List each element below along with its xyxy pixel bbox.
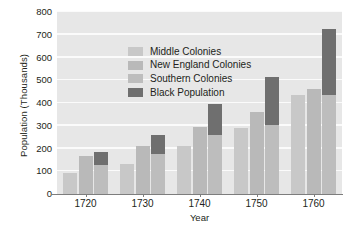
legend-item-label: Middle Colonies bbox=[150, 47, 221, 57]
y-axis-tick-label: 700 bbox=[36, 30, 52, 40]
legend-swatch-icon bbox=[128, 47, 143, 56]
y-axis-tick-label: 400 bbox=[36, 98, 52, 108]
bar-new-england-colonies bbox=[79, 156, 93, 194]
legend-item-label: New England Colonies bbox=[150, 60, 251, 70]
segment-black-population bbox=[208, 104, 222, 135]
segment-southern-colonies bbox=[208, 135, 222, 194]
bar-southern-and-black-population bbox=[151, 135, 165, 194]
x-axis-line bbox=[51, 194, 343, 195]
x-axis-tick-label: 1740 bbox=[177, 198, 223, 210]
y-axis-tick-label: 300 bbox=[36, 121, 52, 131]
bar-southern-and-black-population bbox=[322, 29, 336, 194]
x-axis-tickmark bbox=[314, 194, 315, 197]
x-axis-tickmark bbox=[143, 194, 144, 197]
segment-black-population bbox=[94, 152, 108, 165]
segment-black-population bbox=[322, 29, 336, 95]
legend-swatch-icon bbox=[128, 61, 143, 70]
bar-new-england-colonies bbox=[136, 146, 150, 194]
bar-southern-and-black-population bbox=[265, 77, 279, 194]
bar-group bbox=[120, 12, 165, 194]
y-axis-tick-label: 100 bbox=[36, 166, 52, 176]
chart-legend: Middle ColoniesNew England ColoniesSouth… bbox=[128, 45, 251, 99]
plot-area: Middle ColoniesNew England ColoniesSouth… bbox=[57, 12, 342, 194]
legend-swatch-icon bbox=[128, 88, 143, 97]
segment-southern-colonies bbox=[94, 165, 108, 194]
legend-item: Southern Colonies bbox=[128, 72, 251, 86]
bar-southern-and-black-population bbox=[94, 152, 108, 194]
legend-item: New England Colonies bbox=[128, 59, 251, 73]
segment-southern-colonies bbox=[151, 154, 165, 194]
y-axis-tick-label: 800 bbox=[36, 7, 52, 17]
bar-southern-and-black-population bbox=[208, 104, 222, 194]
y-axis-tick-label: 600 bbox=[36, 53, 52, 63]
bar-middle-colonies bbox=[234, 128, 248, 194]
population-bar-chart: Population (Thousands) 01002003004005006… bbox=[0, 0, 349, 240]
bar-group bbox=[63, 12, 108, 194]
segment-black-population bbox=[265, 77, 279, 125]
y-axis-tick-label: 500 bbox=[36, 75, 52, 85]
legend-item-label: Southern Colonies bbox=[150, 74, 232, 84]
bar-middle-colonies bbox=[120, 164, 134, 194]
x-axis-tick-label: 1750 bbox=[234, 198, 280, 210]
segment-southern-colonies bbox=[322, 95, 336, 194]
x-axis-tickmark bbox=[257, 194, 258, 197]
x-axis-tick-label: 1760 bbox=[291, 198, 337, 210]
legend-item: Middle Colonies bbox=[128, 45, 251, 59]
segment-southern-colonies bbox=[265, 125, 279, 194]
bar-group bbox=[291, 12, 336, 194]
bar-middle-colonies bbox=[63, 173, 77, 194]
bar-group bbox=[177, 12, 222, 194]
x-axis-title: Year bbox=[57, 212, 342, 223]
y-axis-tick-labels: 0100200300400500600700800 bbox=[24, 0, 52, 200]
y-axis-tick-label: 200 bbox=[36, 144, 52, 154]
bar-middle-colonies bbox=[291, 95, 305, 194]
bar-new-england-colonies bbox=[250, 112, 264, 194]
y-axis-zero-tick bbox=[51, 194, 57, 195]
bar-new-england-colonies bbox=[307, 89, 321, 194]
bar-middle-colonies bbox=[177, 146, 191, 194]
x-axis-tick-label: 1730 bbox=[120, 198, 166, 210]
x-axis-tickmark bbox=[86, 194, 87, 197]
bar-group bbox=[234, 12, 279, 194]
x-axis-tick-label: 1720 bbox=[63, 198, 109, 210]
bar-new-england-colonies bbox=[193, 127, 207, 194]
legend-swatch-icon bbox=[128, 74, 143, 83]
x-axis-tickmark bbox=[200, 194, 201, 197]
legend-item-label: Black Population bbox=[150, 88, 225, 98]
legend-item: Black Population bbox=[128, 86, 251, 100]
segment-black-population bbox=[151, 135, 165, 153]
